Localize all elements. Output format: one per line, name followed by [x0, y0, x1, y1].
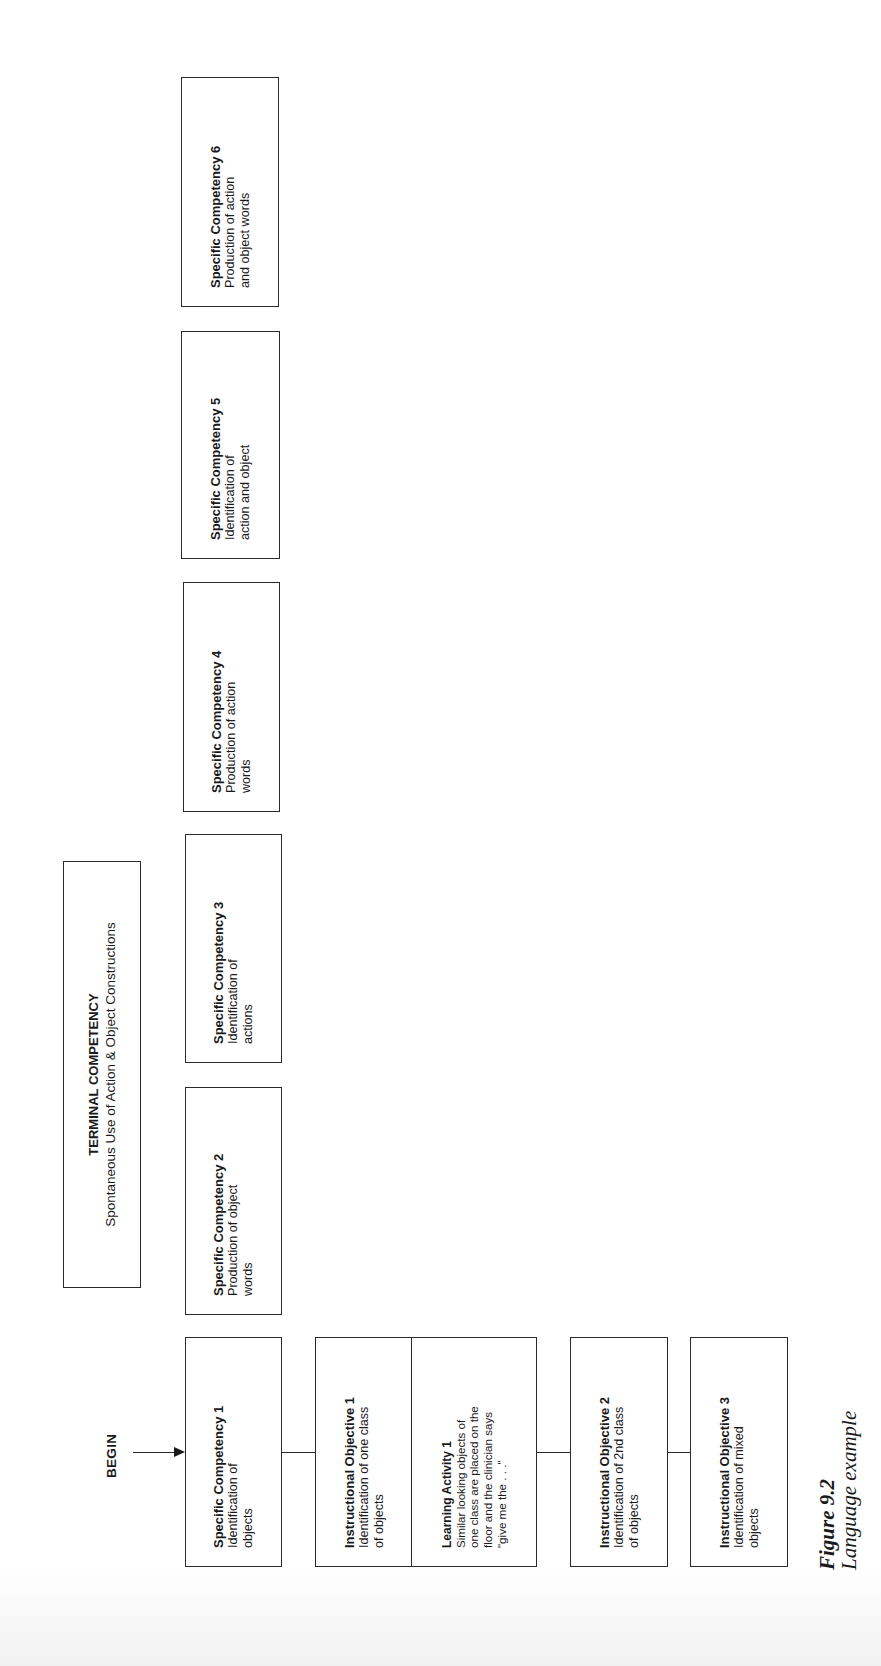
specific-competency-5-box: Specific Competency 5 Identification of … [181, 331, 280, 559]
page: TERMINAL COMPETENCY Spontaneous Use of A… [0, 0, 881, 1666]
instructional-objective-2-box: Instructional Objective 2 Identification… [570, 1337, 668, 1567]
specific-competency-title: Specific Competency 1 [211, 1338, 226, 1548]
instructional-objective-title: Instructional Objective 2 [597, 1338, 612, 1548]
figure-number: Figure 9.2 [816, 1411, 838, 1570]
specific-competency-desc: Identification of objects [226, 1338, 256, 1548]
specific-competency-title: Specific Competency 4 [209, 583, 224, 793]
terminal-competency-box: TERMINAL COMPETENCY Spontaneous Use of A… [63, 861, 141, 1288]
diagram-canvas: TERMINAL COMPETENCY Spontaneous Use of A… [0, 0, 881, 1666]
figure-caption: Figure 9.2 Language example [816, 1411, 860, 1570]
figure-title: Language example [838, 1411, 860, 1570]
specific-competency-title: Specific Competency 2 [211, 1088, 226, 1296]
terminal-competency-desc: Spontaneous Use of Action & Object Const… [102, 922, 119, 1227]
learning-activity-desc: Similar looking objects of one class are… [454, 1338, 508, 1548]
begin-arrow-icon [174, 1447, 185, 1457]
instructional-objective-1-box: Instructional Objective 1 Identification… [315, 1337, 413, 1567]
terminal-competency-title: TERMINAL COMPETENCY [86, 993, 102, 1155]
specific-competency-title: Specific Competency 3 [211, 835, 226, 1044]
specific-competency-3-box: Specific Competency 3 Identification of … [185, 834, 282, 1063]
instructional-objective-3-box: Instructional Objective 3 Identification… [690, 1337, 788, 1567]
specific-competency-desc: Production of action and object words [223, 78, 253, 288]
specific-competency-desc: Production of action words [224, 583, 254, 793]
connector-sc1-io1 [282, 1452, 315, 1453]
learning-activity-title: Learning Activity 1 [440, 1338, 454, 1548]
specific-competency-desc: Production of object words [226, 1088, 256, 1296]
instructional-objective-title: Instructional Objective 1 [342, 1338, 357, 1548]
specific-competency-6-box: Specific Competency 6 Production of acti… [181, 77, 279, 307]
specific-competency-title: Specific Competency 5 [208, 332, 223, 540]
specific-competency-desc: Identification of action and object [223, 332, 253, 540]
instructional-objective-desc: Identification of mixed objects [732, 1338, 762, 1548]
specific-competency-title: Specific Competency 6 [208, 78, 223, 288]
specific-competency-1-box: Specific Competency 1 Identification of … [185, 1337, 282, 1567]
begin-label: BEGIN [104, 1434, 119, 1478]
instructional-objective-desc: Identification of 2nd class of objects [612, 1338, 642, 1548]
connector-io2-io3 [668, 1452, 690, 1453]
specific-competency-2-box: Specific Competency 2 Production of obje… [185, 1087, 282, 1315]
connector-la1-io2 [537, 1452, 570, 1453]
specific-competency-4-box: Specific Competency 4 Production of acti… [183, 582, 280, 812]
instructional-objective-title: Instructional Objective 3 [717, 1338, 732, 1548]
learning-activity-1-box: Learning Activity 1 Similar looking obje… [411, 1337, 537, 1567]
instructional-objective-desc: Identification of one class of objects [357, 1338, 387, 1548]
begin-arrow-line [133, 1452, 175, 1453]
specific-competency-desc: Identification of actions [226, 835, 256, 1044]
